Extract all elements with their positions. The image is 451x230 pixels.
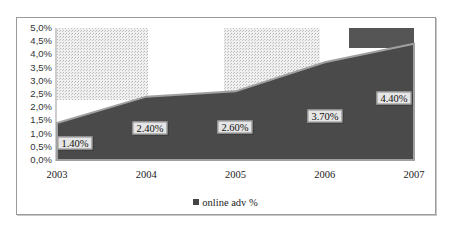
data-label: 2.40% [132,122,167,135]
x-tick-label: 2003 [47,169,68,180]
y-tick-label: 0,5% [12,141,52,152]
plot-area [0,0,451,230]
legend-label: online adv % [202,197,257,208]
legend: online adv % [0,197,451,208]
data-label: 3.70% [307,110,342,123]
data-label: 1.40% [57,137,92,150]
data-label: 2.60% [217,121,252,134]
y-tick-label: 1,5% [12,114,52,125]
y-tick-label: 2,5% [12,88,52,99]
y-tick-label: 0,0% [12,154,52,165]
x-tick-label: 2005 [225,169,246,180]
x-tick-label: 2004 [136,169,157,180]
y-tick-label: 3,5% [12,62,52,73]
y-tick-label: 4,0% [12,48,52,59]
y-tick-label: 5,0% [12,22,52,33]
y-tick-label: 3,0% [12,75,52,86]
x-tick-label: 2006 [314,169,335,180]
y-tick-label: 4,5% [12,35,52,46]
y-tick-label: 1,0% [12,128,52,139]
bg-pattern-block [57,28,148,100]
data-label: 4.40% [376,92,411,105]
x-tick-label: 2007 [404,169,425,180]
legend-swatch-icon [193,199,199,205]
y-tick-label: 2,0% [12,101,52,112]
